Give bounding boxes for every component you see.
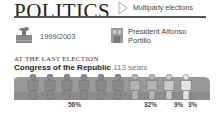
term-years: 1999/2003	[40, 32, 75, 41]
seat-count: 113 seats	[113, 63, 147, 72]
section-kicker: AT THE LAST ELECTION	[14, 55, 99, 63]
ballot-box-icon	[14, 26, 34, 44]
party3-percentage: 9%	[174, 101, 183, 108]
subtitle: Multiparty elections	[133, 4, 193, 11]
president-name: President Alfonso Portillo	[128, 27, 186, 45]
party1-percentage: 56%	[68, 101, 81, 108]
triangle-arrow-icon	[118, 1, 128, 15]
congress-name: Congress of the Republic	[14, 63, 111, 72]
party2-percentage: 32%	[144, 101, 157, 108]
congress-heading: Congress of the Republic 113 seats	[14, 63, 147, 72]
page-title: POLITICS	[14, 1, 110, 21]
seat-pictogram-chart	[14, 74, 210, 100]
title-divider	[14, 16, 206, 18]
president-building-icon	[110, 26, 124, 44]
party4-percentage: 3%	[188, 101, 197, 108]
